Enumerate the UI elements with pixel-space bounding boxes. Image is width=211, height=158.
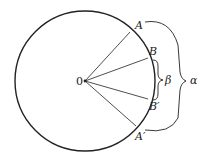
beta-label: β (164, 74, 171, 87)
circle-angle-diagram: 0 A B B′ A′ β α (0, 0, 211, 158)
radius-A (85, 32, 130, 81)
radius-B-prime (85, 81, 148, 99)
point-label-A: A (134, 19, 143, 32)
point-label-A-prime: A′ (134, 130, 146, 143)
radius-B (85, 58, 148, 81)
radius-A-prime (85, 81, 136, 126)
alpha-label: α (190, 74, 198, 87)
center-label: 0 (76, 75, 83, 88)
point-label-B: B (148, 45, 157, 58)
point-label-B-prime: B′ (148, 100, 160, 113)
